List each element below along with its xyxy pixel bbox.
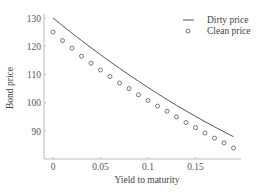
clean-price-marker [70,46,74,50]
clean-price-marker [137,93,141,97]
clean-price-marker [222,141,226,145]
clean-price-marker [165,109,169,113]
clean-price-marker [127,87,131,91]
legend: Dirty price Clean price [183,15,251,36]
clean-price-marker [99,68,103,72]
clean-price-markers [51,30,236,150]
clean-price-marker [156,104,160,108]
y-tick-label: 100 [27,98,42,108]
y-tick-label: 120 [27,42,42,52]
clean-price-marker [118,81,122,85]
x-axis-label: Yield to maturity [115,175,180,185]
clean-price-marker [213,136,217,140]
x-tick-label: 0.1 [142,162,154,172]
clean-price-marker [203,131,207,135]
legend-label-dirty: Dirty price [207,15,248,25]
clean-price-marker [108,75,112,79]
clean-price-marker [51,30,55,34]
clean-price-marker [80,54,84,58]
clean-price-marker [89,61,93,65]
legend-label-clean: Clean price [207,26,251,36]
clean-price-marker [194,126,198,130]
x-tick-label: 0 [51,162,56,172]
x-tick-label: 0.15 [187,162,204,172]
clean-price-marker [232,146,236,150]
clean-price-marker [61,39,65,43]
y-tick-label: 90 [32,127,42,137]
bond-price-chart: 90100110120130 00.050.10.15 Bond price Y… [0,0,261,196]
x-axis: 00.050.10.15 [44,157,241,172]
x-tick-label: 0.05 [92,162,109,172]
y-tick-label: 110 [27,70,41,80]
clean-price-marker [175,115,179,119]
y-tick-label: 130 [27,14,42,24]
y-axis: 90100110120130 [27,14,46,160]
legend-circle-icon [186,29,190,33]
clean-price-marker [146,99,150,103]
clean-price-marker [184,121,188,125]
y-axis-label: Bond price [5,67,15,109]
